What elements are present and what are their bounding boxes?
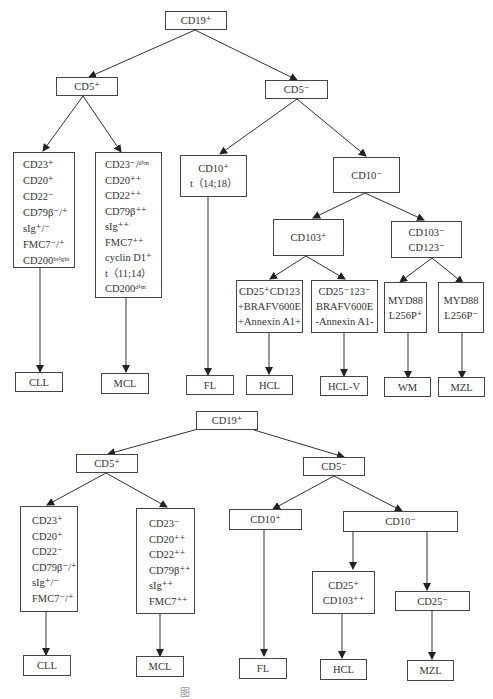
leaf-cll: CLL xyxy=(15,372,63,392)
node-cd10-positive-2: CD10⁺ xyxy=(229,509,302,530)
leaf-mcl: MCL xyxy=(101,373,149,394)
node-mcl-markers-2: CD23⁻ CD20⁺⁺ CD22⁺⁺ CD79β⁺⁺ sIg⁺⁺ FMC7⁺⁺ xyxy=(136,508,195,614)
node-mcl-markers: CD23⁻/ᵈⁱᵐ CD20⁺⁺ CD22⁺⁺ CD79β⁺⁺ sIg⁺⁺ FM… xyxy=(95,152,162,298)
node-cd5-positive-2: CD5⁺ xyxy=(76,454,138,473)
leaf-fl: FL xyxy=(186,375,234,395)
node-mzl-markers: MYD88 L256P⁻ xyxy=(438,282,484,333)
node-cd103-cd123-negative: CD103⁻ CD123⁻ xyxy=(391,221,462,258)
node-cd10-negative-2: CD10⁻ xyxy=(343,511,458,532)
node-cd5-negative-2: CD5⁻ xyxy=(303,457,365,476)
node-cd5-positive: CD5⁺ xyxy=(56,77,118,96)
node-cll-markers-2: CD23⁺ CD20⁺ CD22⁻ CD79β⁻/⁺ sIg⁺/⁻ FMC7⁻/… xyxy=(20,506,78,612)
leaf-cll-2: CLL xyxy=(23,655,71,676)
node-cd19-positive: CD19⁺ xyxy=(165,11,227,30)
leaf-mzl: MZL xyxy=(438,377,485,397)
node-cd5-negative: CD5⁻ xyxy=(265,80,328,99)
node-cd10-negative: CD10⁻ xyxy=(333,157,400,193)
node-cd25-negative: CD25⁻ xyxy=(395,591,470,611)
leaf-mzl-2: MZL xyxy=(407,660,454,681)
node-cd10-positive: CD10⁺ t（14;18） xyxy=(180,155,247,197)
leaf-fl-2: FL xyxy=(239,658,287,679)
leaf-mcl-2: MCL xyxy=(136,656,184,677)
leaf-hcl-2: HCL xyxy=(320,659,367,680)
node-cd25-cd103-positive: CD25⁺ CD103⁺⁺ xyxy=(312,571,375,614)
node-hcl-markers: CD25⁺CD123 +BRAFV600E +Annexin A1+ xyxy=(236,280,303,333)
node-cll-markers: CD23⁺ CD20⁺ CD22⁻ CD79β⁻/⁺ sIg⁺/⁻ FMC7⁻/… xyxy=(13,152,75,268)
figure-caption: 图 xyxy=(180,684,190,699)
leaf-wm: WM xyxy=(384,377,431,397)
node-cd103-positive: CD103⁺ xyxy=(273,219,344,256)
node-cd19-positive-2: CD19⁺ xyxy=(196,411,258,430)
node-wm-markers: MYD88 L256P⁺ xyxy=(384,282,427,333)
leaf-hcl-v: HCL-V xyxy=(320,376,368,396)
node-hclv-markers: CD25⁻123⁻ BRAFV600E -Annexin A1- xyxy=(311,280,378,333)
leaf-hcl: HCL xyxy=(246,375,293,395)
